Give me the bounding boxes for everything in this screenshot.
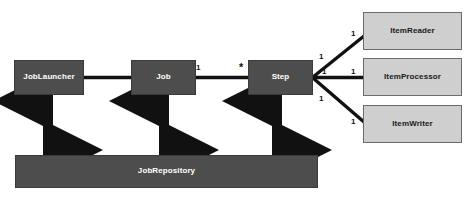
- multiplicity-job-to-step-source: 1: [196, 64, 200, 72]
- node-joblauncher-label: JobLauncher: [23, 73, 74, 81]
- node-itemprocessor-label: ItemProcessor: [384, 73, 441, 81]
- node-jobrepository-label: JobRepository: [138, 167, 195, 175]
- node-step[interactable]: Step: [248, 60, 313, 95]
- multiplicity-step-to-writer-target: 1: [351, 118, 355, 126]
- node-itemreader-label: ItemReader: [390, 27, 435, 35]
- multiplicity-step-to-processor-target: 1: [351, 68, 355, 76]
- node-job-label: Job: [156, 73, 171, 81]
- node-jobrepository[interactable]: JobRepository: [15, 155, 318, 188]
- node-itemwriter-label: ItemWriter: [392, 120, 432, 128]
- node-itemreader[interactable]: ItemReader: [363, 12, 462, 50]
- node-itemprocessor[interactable]: ItemProcessor: [363, 58, 462, 96]
- uml-class-diagram: JobLauncher Job Step JobRepository ItemR…: [0, 0, 475, 202]
- multiplicity-step-to-processor-source: 1: [322, 68, 326, 76]
- node-itemwriter[interactable]: ItemWriter: [363, 105, 462, 143]
- multiplicity-step-to-reader-target: 1: [351, 30, 355, 38]
- multiplicity-step-to-reader-source: 1: [319, 53, 323, 61]
- multiplicity-step-to-writer-source: 1: [319, 95, 323, 103]
- node-step-label: Step: [272, 73, 290, 81]
- node-joblauncher[interactable]: JobLauncher: [14, 60, 84, 95]
- multiplicity-job-to-step-target: *: [239, 62, 243, 73]
- node-job[interactable]: Job: [131, 60, 196, 95]
